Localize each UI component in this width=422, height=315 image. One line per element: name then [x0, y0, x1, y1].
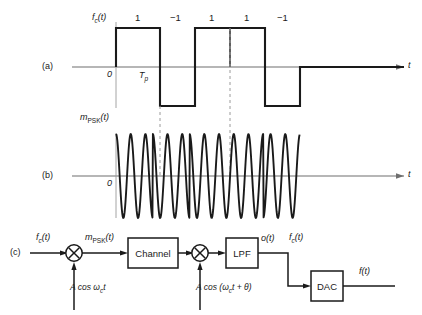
panel-c-mod-main: m [85, 232, 93, 242]
panel-label-a: (a) [42, 61, 53, 71]
bit-label-2: −1 [170, 12, 181, 23]
panel-c-input-label: fc(t) [36, 232, 50, 244]
recovered-tail: (t) [295, 232, 304, 242]
lpf-output-label: o(t) [261, 233, 275, 243]
panel-b-signal-sub: PSK [88, 117, 101, 124]
channel-block-label[interactable]: Channel [128, 238, 178, 268]
carrier-tx-main: A cos [70, 282, 93, 292]
recovered-signal-label: fc(t) [289, 232, 303, 244]
panel-label-c: (c) [10, 247, 21, 257]
panel-b-signal-tail: (t) [101, 112, 110, 122]
carrier-tx-tail: t [103, 282, 105, 292]
panel-c-mod-tail: (t) [106, 232, 115, 242]
carrier-rx-omega: ω [222, 282, 229, 292]
panel-b-signal-label: mPSK(t) [80, 112, 109, 124]
panel-a-axis-label: t [408, 60, 411, 70]
carrier-rx-main: A cos ( [196, 282, 222, 292]
panel-b-axis-label: t [408, 169, 411, 179]
bit-label-1: 1 [135, 12, 140, 23]
arrow-carrier-rx [197, 262, 202, 270]
panel-a-signal-tail: (t) [98, 12, 107, 22]
bit-label-5: −1 [277, 12, 288, 23]
panel-a-period-sub: p [145, 75, 149, 82]
panel-b-signal-main: m [80, 112, 88, 122]
carrier-tx-label: A cos ωct [70, 282, 106, 294]
mixer-1 [66, 245, 82, 261]
arrow-into-lpf [218, 250, 226, 255]
panel-c-input-tail: (t) [42, 232, 51, 242]
panel-a-period-label: Tp [139, 70, 148, 82]
arrow-into-channel [120, 250, 128, 255]
lpf-block-label[interactable]: LPF [226, 238, 258, 268]
panel-a-origin-label: 0 [107, 69, 112, 79]
panel-label-b: (b) [42, 170, 53, 180]
carrier-rx-tail: t + θ) [232, 282, 252, 292]
carrier-tx-omega: ω [93, 282, 100, 292]
carrier-rx-label: A cos (ωct + θ) [196, 282, 252, 294]
panel-b-origin-label: 0 [107, 178, 112, 188]
wire-lpf-dac [258, 253, 307, 286]
panel-c-mod-sub: PSK [93, 237, 106, 244]
figure-psk-modulation: (a) (b) (c) fc(t) 1 −1 1 1 −1 0 Tp t mPS… [0, 0, 422, 315]
mixer-2 [192, 245, 208, 261]
dac-block-label[interactable]: DAC [311, 271, 343, 301]
panel-c-modulated-label: mPSK(t) [85, 232, 114, 244]
arrow-into-dac [303, 283, 311, 288]
panel-a-signal-label: fc(t) [92, 12, 106, 24]
arrow-carrier-tx [71, 262, 76, 270]
bit-label-3: 1 [209, 12, 214, 23]
bit-label-4: 1 [244, 12, 249, 23]
final-output-label: f(t) [359, 266, 370, 276]
